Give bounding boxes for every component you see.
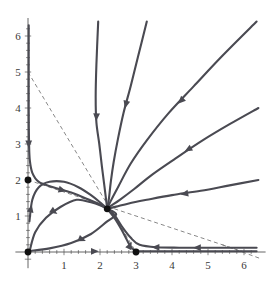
- trajectory-down-to-x-axis: [107, 209, 136, 251]
- x-axis-tick-label: 1: [61, 259, 67, 271]
- trajectories-layer: [29, 22, 259, 252]
- x-axis-tick-label: 5: [205, 259, 211, 271]
- trajectory-arrow-markers: [25, 96, 200, 255]
- direction-arrow-icon: [152, 244, 160, 251]
- x-axis-tick-label: 2: [97, 259, 103, 271]
- x-axis-tick-label: 4: [169, 259, 175, 271]
- direction-arrow-icon: [93, 113, 100, 121]
- direction-arrow-icon: [193, 244, 201, 251]
- x-axis-tick-label: 6: [241, 259, 247, 271]
- direction-arrow-icon: [91, 248, 99, 255]
- trajectory-from-upper-right-1: [107, 22, 256, 209]
- x-axis-tick-label: 3: [133, 259, 139, 271]
- y-axis-tick-label: 1: [15, 210, 21, 222]
- axes-layer: [15, 18, 265, 268]
- trajectory-from-origin-mid: [30, 200, 107, 251]
- equilibrium-point-origin: [25, 249, 32, 256]
- equilibrium-point-interior-equilibrium: [104, 205, 111, 212]
- trajectory-from-origin-upper: [29, 181, 107, 221]
- trajectory-from-origin-lower: [30, 209, 116, 251]
- equilibrium-point-x-axis-equilibrium: [133, 249, 140, 256]
- phase-portrait-canvas: 123456123456: [0, 0, 276, 282]
- y-axis-tick-label: 4: [15, 102, 21, 114]
- nullclines-layer: [28, 72, 260, 258]
- y-axis-tick-label: 6: [15, 30, 21, 42]
- y-axis-tick-label: 2: [15, 174, 21, 186]
- phase-portrait-figure: 123456123456: [0, 0, 276, 282]
- y-axis-tick-label: 5: [15, 66, 21, 78]
- equilibrium-point-y-axis-equilibrium: [25, 177, 32, 184]
- y-axis-tick-label: 3: [15, 138, 21, 150]
- trajectory-from-top-center: [107, 22, 147, 209]
